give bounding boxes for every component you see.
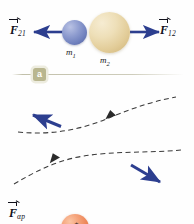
mass-1-label: m1 xyxy=(66,47,76,59)
trajectory-proton-arrowhead xyxy=(105,110,116,119)
force-label-F12: F12 xyxy=(160,24,176,38)
force-label-Fap: Fαp xyxy=(9,207,25,221)
force-label-F21: F21 xyxy=(10,24,26,38)
panel-a-badge: a xyxy=(33,68,46,81)
force-arrow-Fpa xyxy=(131,165,160,182)
panel-a: m1 m2 F21 F12 a xyxy=(0,0,194,95)
physics-figure: m1 m2 F21 F12 a p+ xyxy=(0,0,194,224)
mass-2-label: m2 xyxy=(100,55,110,67)
trajectory-helium-arrowhead xyxy=(50,153,60,163)
panel-b: p+ ++ 4He Fαp Fpα b xyxy=(0,95,194,224)
panel-b-artwork xyxy=(0,95,194,224)
sphere-mass-1 xyxy=(62,20,87,45)
trajectory-proton xyxy=(18,97,176,133)
sphere-mass-2 xyxy=(89,12,130,53)
force-arrow-Fap xyxy=(33,115,61,127)
proton-charge-label: p+ xyxy=(69,220,78,224)
